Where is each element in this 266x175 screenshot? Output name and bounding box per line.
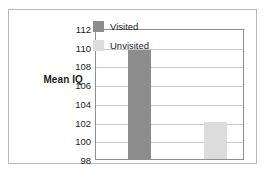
legend-item-visited: Visited: [93, 17, 155, 36]
y-axis-tick-102: 102: [67, 117, 91, 128]
y-axis-tick-labels: 11211010810610410210098: [67, 29, 91, 160]
legend-item-unvisited: Unvisited: [93, 36, 155, 55]
bar-unvisited: [204, 122, 227, 159]
bar-chart: Mean IQ 11211010810610410210098 VisitedU…: [9, 10, 256, 163]
figure-frame: Mean IQ 11211010810610410210098 VisitedU…: [8, 9, 257, 164]
legend-label: Visited: [110, 21, 138, 32]
y-axis-tick-104: 104: [67, 98, 91, 109]
y-axis-tick-98: 98: [67, 155, 91, 166]
y-axis-tick-100: 100: [67, 136, 91, 147]
bar-visited: [128, 50, 151, 159]
y-axis-tick-106: 106: [67, 80, 91, 91]
legend-swatch-icon: [93, 40, 104, 51]
chart-legend: VisitedUnvisited: [93, 17, 155, 55]
legend-label: Unvisited: [110, 40, 149, 51]
y-axis-tick-112: 112: [67, 24, 91, 35]
y-axis-tick-110: 110: [67, 42, 91, 53]
y-axis-tick-108: 108: [67, 61, 91, 72]
legend-swatch-icon: [93, 21, 104, 32]
